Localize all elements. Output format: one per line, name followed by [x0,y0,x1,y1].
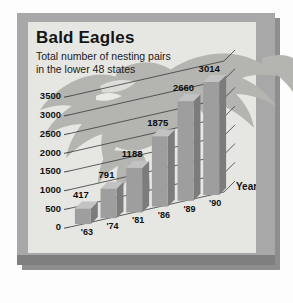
x-axis-tick-label: '81 [132,215,144,225]
y-axis-tick-label: 2000 [40,147,61,158]
bar [152,129,175,206]
x-axis-tick-label: '89 [183,204,195,214]
bar [178,94,201,201]
y-axis-tick-label: 2500 [40,128,61,139]
bar [126,161,149,212]
bar [101,182,124,219]
y-axis-tick-group: 0500100015002000250030003500 [40,90,61,232]
bar-value-label: 1875 [147,117,169,128]
y-axis-tick-label: 500 [45,203,61,214]
bar-value-label: 3014 [199,63,221,74]
y-axis-tick-label: 1000 [40,184,61,195]
x-axis-tick-label: '63 [81,227,93,237]
chart-screenshot: Bald Eagles Total number of nesting pair… [0,0,293,303]
x-axis-title: Year [236,181,256,192]
bar-value-label: 2660 [173,82,194,93]
bar [203,75,226,195]
y-axis-tick-label: 1500 [40,165,61,176]
x-axis-tick-label: '74 [106,221,118,231]
bar-chart-plot: 0500100015002000250030003500 '63'74'81'8… [28,22,256,253]
y-axis-tick-label: 0 [56,221,61,232]
y-axis-tick-label: 3500 [40,90,61,101]
frame-bottom-band [17,255,275,265]
bar-group [75,75,226,224]
bar-value-label: 791 [99,169,116,180]
bar-value-label: 417 [73,189,89,200]
y-axis-tick-label: 3000 [40,109,61,120]
x-axis-tick-label: '90 [209,198,221,208]
x-axis-tick-label: '86 [158,210,170,220]
bar [75,201,98,224]
bar-value-label: 1188 [122,148,143,159]
